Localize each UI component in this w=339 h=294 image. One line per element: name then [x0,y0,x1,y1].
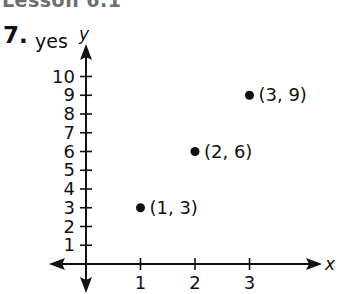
data-point-label: (3, 9) [259,84,307,105]
data-point [136,203,145,212]
y-tick-label: 10 [52,66,75,87]
x-tick-label: 2 [189,272,200,293]
y-tick-label: 2 [64,216,75,237]
y-axis-label: y [78,24,90,44]
y-tick-label: 9 [64,84,75,105]
y-tick-label: 7 [64,122,75,143]
y-tick-label: 5 [64,159,75,180]
data-point-label: (2, 6) [204,141,252,162]
y-axis: y [78,24,92,293]
x-tick-label: 1 [135,272,146,293]
data-point [191,147,200,156]
x-axis: x [49,254,336,274]
y-tick-label: 1 [64,234,75,255]
y-tick-label: 6 [64,141,75,162]
x-axis-label: x [324,254,336,274]
data-point-label: (1, 3) [150,197,198,218]
data-points: (1, 3)(2, 6)(3, 9) [136,84,307,218]
y-tick-label: 8 [64,103,75,124]
coordinate-plane: x y 123 12345678910 (1, 3)(2, 6)(3, 9) [0,0,339,294]
y-tick-label: 3 [64,197,75,218]
data-point [245,91,254,100]
x-tick-label: 3 [244,272,255,293]
y-tick-label: 4 [64,178,75,199]
